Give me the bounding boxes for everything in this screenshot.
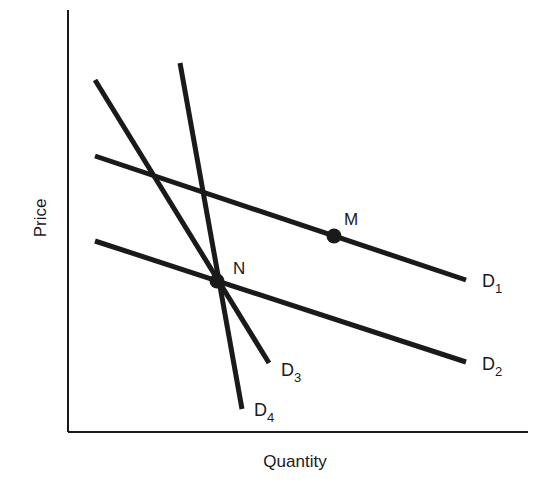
- curve-label: D2: [482, 354, 502, 379]
- demand-curves: D1D2D3D4: [95, 63, 502, 425]
- curve-label: D3: [281, 360, 301, 385]
- marked-points: MN: [210, 210, 359, 289]
- curve-d3: D3: [95, 80, 301, 385]
- demand-curves-diagram: D1D2D3D4 MN Quantity Price: [0, 0, 558, 488]
- y-axis-label: Price: [31, 199, 50, 238]
- curve-d2: D2: [95, 241, 502, 379]
- point-marker: [210, 274, 225, 289]
- point-label: N: [233, 259, 245, 278]
- curve-label: D1: [482, 271, 502, 296]
- point-label: M: [344, 210, 358, 229]
- curve-label: D4: [254, 400, 274, 425]
- point-marker: [327, 229, 342, 244]
- curve-line: [95, 80, 269, 363]
- x-axis-label: Quantity: [263, 452, 327, 471]
